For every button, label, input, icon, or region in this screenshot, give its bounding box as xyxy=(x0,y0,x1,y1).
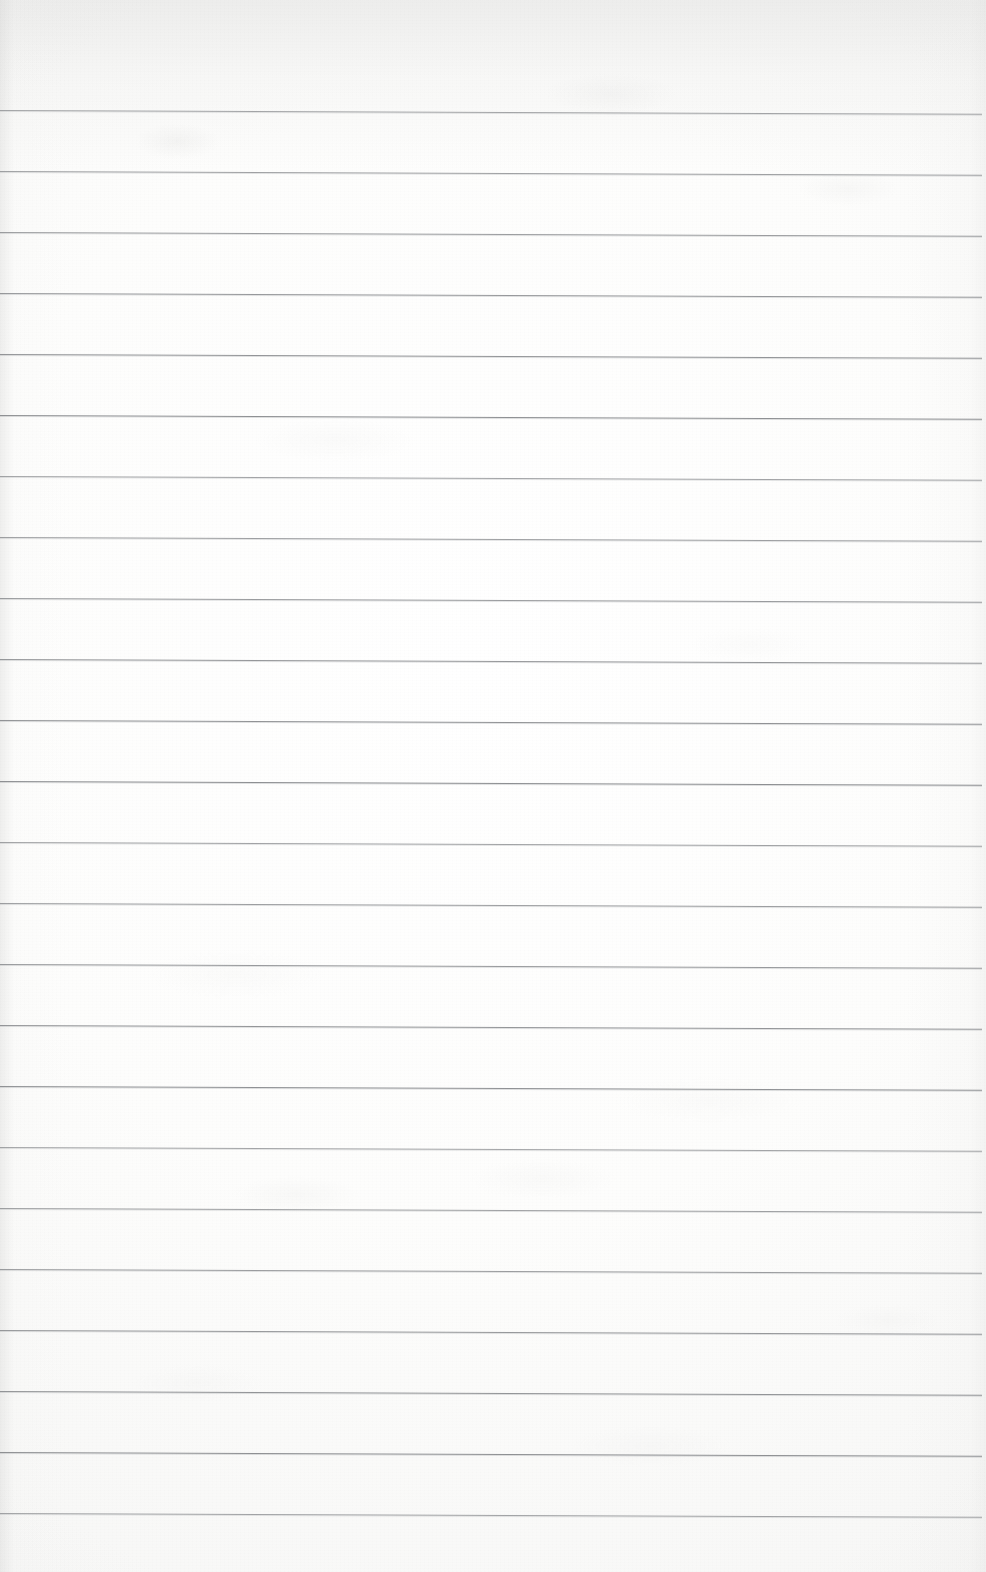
scanned-page xyxy=(0,0,986,1572)
rule-line xyxy=(0,659,982,664)
rule-line xyxy=(0,1330,982,1335)
rule-line xyxy=(0,1513,982,1518)
rule-line xyxy=(0,354,982,359)
ruled-lines-layer xyxy=(0,0,986,1572)
rule-line xyxy=(0,1086,982,1091)
rule-line xyxy=(0,415,982,420)
rule-line xyxy=(0,1391,982,1396)
rule-line xyxy=(0,171,982,176)
rule-line xyxy=(0,598,982,603)
rule-line xyxy=(0,842,982,847)
rule-line xyxy=(0,110,982,115)
rule-line xyxy=(0,537,982,542)
rule-line xyxy=(0,1025,982,1030)
rule-line xyxy=(0,293,982,298)
rule-line xyxy=(0,1147,982,1152)
rule-line xyxy=(0,1452,982,1457)
rule-line xyxy=(0,964,982,969)
rule-line xyxy=(0,232,982,237)
rule-line xyxy=(0,476,982,481)
rule-line xyxy=(0,1208,982,1213)
rule-line xyxy=(0,781,982,786)
rule-line xyxy=(0,720,982,725)
rule-line xyxy=(0,903,982,908)
rule-line xyxy=(0,1269,982,1274)
